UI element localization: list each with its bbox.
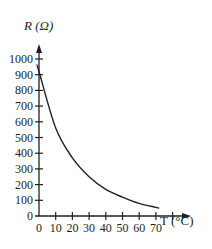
y-tick-label: 900 [15, 68, 33, 82]
chart: 01002003004005006007008009001000 0102030… [0, 0, 212, 249]
y-tick-label: 1000 [9, 52, 33, 66]
y-tick-label: 600 [15, 115, 33, 129]
y-ticks: 01002003004005006007008009001000 [9, 52, 43, 223]
x-tick-label: 60 [133, 221, 145, 235]
y-tick-label: 200 [15, 178, 33, 192]
x-tick-label: 0 [36, 221, 42, 235]
y-tick-label: 500 [15, 131, 33, 145]
x-tick-label: 50 [117, 221, 129, 235]
y-axis-label: R (Ω) [23, 18, 53, 33]
y-tick-label: 100 [15, 193, 33, 207]
y-tick-label: 400 [15, 146, 33, 160]
x-tick-label: 30 [83, 221, 95, 235]
x-axis-label: T (°C) [160, 213, 193, 228]
y-tick-label: 300 [15, 162, 33, 176]
x-tick-label: 20 [66, 221, 78, 235]
x-tick-label: 10 [50, 221, 62, 235]
y-tick-label: 0 [27, 209, 33, 223]
y-tick-label: 700 [15, 99, 33, 113]
x-tick-label: 40 [100, 221, 112, 235]
y-axis-arrow-icon [36, 44, 42, 53]
data-curve [37, 65, 159, 208]
y-tick-label: 800 [15, 83, 33, 97]
